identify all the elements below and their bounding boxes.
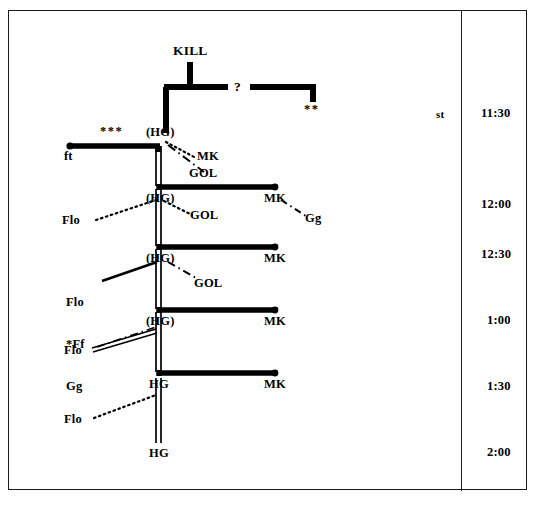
label-flo-1: Flo [62, 214, 80, 227]
label-mk-1: MK [197, 150, 219, 163]
label-gol-3: GOL [194, 277, 222, 290]
label-hg-plain-1: HG [149, 378, 169, 391]
mk-dotted-1 [166, 142, 196, 158]
label-kill: KILL [173, 44, 208, 58]
row5-mk-dot [272, 370, 279, 377]
time-tick-2: 12:00 [481, 198, 511, 211]
flo-double-join-lower [93, 333, 157, 352]
label-double-star: ** [304, 103, 320, 116]
label-gol-2: GOL [190, 209, 218, 222]
diagram-page: KILL ? ** *** ft (HG) MK GOL (HG) MK Flo… [0, 0, 534, 515]
time-tick-6: 2:00 [487, 446, 511, 459]
label-flo-cluster-gg: Gg [66, 379, 85, 393]
label-mk-4: MK [264, 315, 286, 328]
flo-dotted-3 [94, 395, 156, 418]
label-mk-5: MK [264, 378, 286, 391]
row2-mk-dot [272, 184, 279, 191]
time-tick-3: 12:30 [481, 248, 511, 261]
label-triple-star: *** [100, 125, 123, 138]
label-mk-2: MK [264, 192, 286, 205]
row3-mk-dot [272, 244, 279, 251]
label-hg-paren-2: (HG) [146, 192, 175, 205]
time-tick-1: 11:30 [481, 107, 510, 120]
label-mk-3: MK [264, 252, 286, 265]
label-hg-paren-4: (HG) [146, 315, 175, 328]
label-flo-3: Flo [64, 413, 82, 426]
time-tick-4: 1:00 [487, 314, 511, 327]
row4-mk-dot [272, 307, 279, 314]
label-hg-paren-3: (HG) [146, 252, 175, 265]
label-gol-1: GOL [189, 167, 217, 180]
label-gg-1: Gg [305, 212, 321, 225]
label-ft: ft [64, 150, 73, 163]
label-st: st [436, 109, 444, 121]
label-hg-paren-1: (HG) [146, 126, 175, 139]
label-flo-2: Flo [64, 344, 82, 357]
label-hg-plain-2: HG [149, 447, 169, 460]
label-question: ? [234, 80, 241, 94]
time-tick-5: 1:30 [487, 380, 511, 393]
label-flo-cluster-flo: Flo [66, 295, 85, 309]
